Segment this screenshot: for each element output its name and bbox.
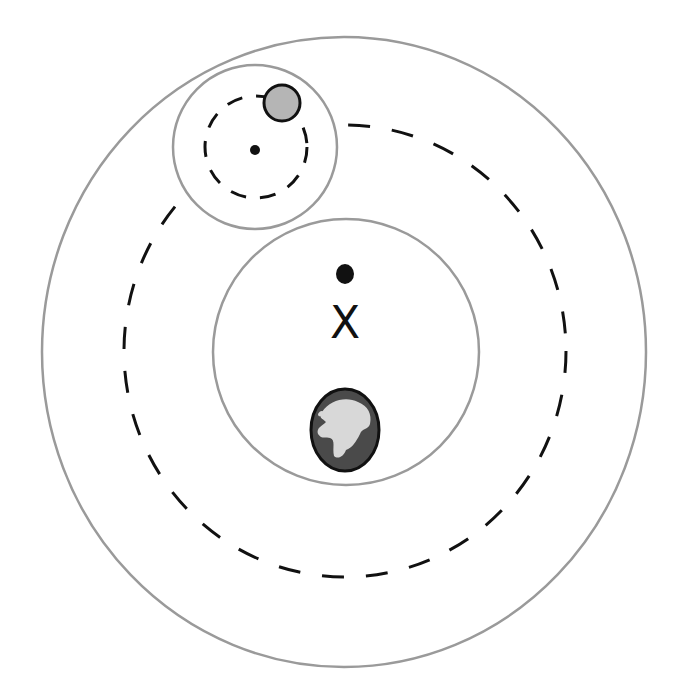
earth-icon (311, 389, 379, 471)
equant-x-mark: X (324, 300, 366, 346)
planet (264, 85, 300, 121)
epicycle-center-dot (250, 145, 260, 155)
deferent-center-dot (336, 264, 354, 284)
epicycle-diagram (0, 0, 679, 698)
